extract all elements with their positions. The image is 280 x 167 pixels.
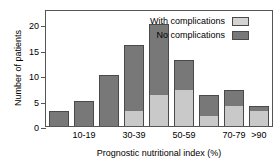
x-axis-tick-label: 10-19 bbox=[72, 130, 95, 140]
legend-item: With complications bbox=[150, 16, 249, 26]
bar-segment-with-complications bbox=[174, 90, 194, 126]
x-axis-tick-label: 70-79 bbox=[222, 130, 245, 140]
bar-segment-no-complications bbox=[124, 45, 144, 111]
bar-segment-with-complications bbox=[249, 111, 269, 126]
bar-segment-no-complications bbox=[174, 60, 194, 91]
x-axis-tick-label: 50-59 bbox=[172, 130, 195, 140]
bar-10-19 bbox=[74, 9, 94, 126]
bar-30-39 bbox=[124, 9, 144, 126]
legend-label: No complications bbox=[157, 30, 226, 40]
y-axis-tick-label: 20 bbox=[29, 21, 39, 31]
bar-segment-with-complications bbox=[149, 95, 169, 126]
bar-segment-no-complications bbox=[199, 95, 219, 115]
bar-segment-no-complications bbox=[99, 75, 119, 126]
bar-segment-with-complications bbox=[124, 111, 144, 126]
y-axis-tick-label: 15 bbox=[29, 47, 39, 57]
y-axis-tick-label: 0 bbox=[34, 123, 39, 133]
bar-20-29 bbox=[99, 9, 119, 126]
bar-segment-with-complications bbox=[224, 106, 244, 126]
bar->90 bbox=[249, 9, 269, 126]
y-axis-tick-label: 5 bbox=[34, 98, 39, 108]
y-axis-tick-label: 10 bbox=[29, 72, 39, 82]
y-axis-tick bbox=[41, 128, 46, 129]
legend-swatch-dark bbox=[232, 31, 249, 40]
y-axis-title: Number of patients bbox=[13, 8, 23, 128]
bar-segment-no-complications bbox=[74, 101, 94, 126]
bar-0-9 bbox=[49, 9, 69, 126]
legend-label: With complications bbox=[150, 16, 225, 26]
x-axis-tick-label: 30-39 bbox=[122, 130, 145, 140]
legend-item: No complications bbox=[150, 30, 249, 40]
x-axis-tick-label: >90 bbox=[251, 130, 266, 140]
bar-segment-no-complications bbox=[224, 90, 244, 105]
x-axis-title: Prognostic nutritional index (%) bbox=[45, 148, 273, 158]
chart-legend: With complicationsNo complications bbox=[150, 16, 249, 44]
bar-segment-no-complications bbox=[49, 111, 69, 126]
bar-segment-with-complications bbox=[199, 116, 219, 126]
chart-figure: Number of patients 05101520 10-1930-3950… bbox=[0, 0, 280, 167]
legend-swatch-light bbox=[232, 17, 249, 26]
